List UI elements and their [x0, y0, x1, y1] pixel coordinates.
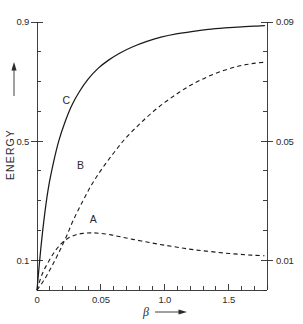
left-tick-label: 0.9: [16, 16, 29, 27]
y-axis-title: ENERGY: [4, 129, 16, 180]
x-tick-label: 1.0: [158, 294, 171, 305]
right-tick-label: 0.05: [276, 136, 294, 147]
curve-label-C: C: [63, 94, 71, 106]
right-tick-label: 0.01: [276, 255, 294, 266]
curve-label-A: A: [90, 213, 97, 225]
left-tick-label: 0.5: [16, 136, 29, 147]
x-tick-label: 1.5: [222, 294, 235, 305]
chart-background: [0, 0, 303, 324]
curve-label-B: B: [77, 159, 84, 171]
energy-vs-beta-chart: 0.10.50.9 0.010.050.09 00.051.01.5 ABC E…: [0, 0, 303, 324]
x-axis-title: β: [142, 305, 149, 319]
x-tick-label: 0.05: [92, 294, 110, 305]
chart-figure: 0.10.50.9 0.010.050.09 00.051.01.5 ABC E…: [0, 0, 303, 324]
left-tick-label: 0.1: [16, 255, 29, 266]
right-tick-label: 0.09: [276, 16, 294, 27]
x-tick-label: 0: [34, 294, 39, 305]
